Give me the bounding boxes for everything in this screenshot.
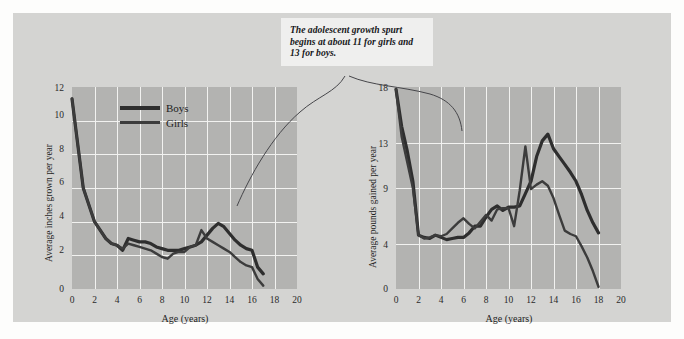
- figure-root: Average inches grown per year Age (years…: [0, 0, 684, 339]
- annotation-callout: The adolescent growth spurt begins at ab…: [281, 18, 433, 66]
- annotation-text: The adolescent growth spurt begins at ab…: [290, 24, 425, 59]
